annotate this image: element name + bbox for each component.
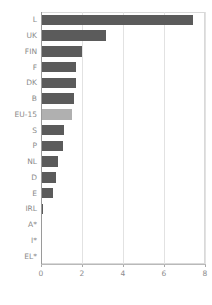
x-tick-label: 6 <box>154 269 174 279</box>
category-label: B <box>1 94 37 103</box>
category-label: L <box>1 15 37 24</box>
category-label: EL* <box>1 252 37 261</box>
gridline <box>164 12 165 264</box>
bar-chart: 02468 LUKFINFDKBEU-15SPNLDEIRLA*I*EL* <box>0 0 212 305</box>
x-tick-label: 2 <box>72 269 92 279</box>
x-axis-line <box>41 264 206 265</box>
bar-f <box>42 62 76 73</box>
category-label: P <box>1 141 37 150</box>
category-label: IRL <box>1 204 37 213</box>
x-tick-label: 8 <box>195 269 212 279</box>
bar-e <box>42 188 53 199</box>
gridline <box>82 12 83 264</box>
bar-fin <box>42 46 82 57</box>
category-label: I* <box>1 236 37 245</box>
bar-p <box>42 141 63 152</box>
category-label: E <box>1 189 37 198</box>
category-label: DK <box>1 78 37 87</box>
bar-b <box>42 93 74 104</box>
bar-nl <box>42 156 58 167</box>
category-label: F <box>1 63 37 72</box>
x-tick-label: 0 <box>31 269 51 279</box>
bar-uk <box>42 30 106 41</box>
category-label: FIN <box>1 47 37 56</box>
category-label: A* <box>1 220 37 229</box>
category-label: UK <box>1 31 37 40</box>
bar-dk <box>42 78 76 89</box>
gridline <box>205 12 206 264</box>
category-label: NL <box>1 157 37 166</box>
x-tick-label: 4 <box>113 269 133 279</box>
bar-s <box>42 125 64 136</box>
bar-eu-15 <box>42 109 72 120</box>
category-label: D <box>1 173 37 182</box>
gridline <box>123 12 124 264</box>
bar-irl <box>42 204 43 215</box>
bar-l <box>42 15 193 26</box>
category-label: EU-15 <box>1 110 37 119</box>
bar-d <box>42 172 56 183</box>
category-label: S <box>1 126 37 135</box>
